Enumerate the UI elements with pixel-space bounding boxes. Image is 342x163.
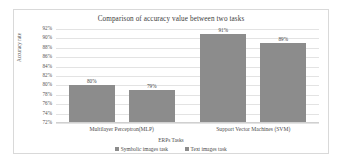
chart-title: Comparison of accuracy value between two… — [14, 15, 328, 23]
gridline — [56, 123, 319, 124]
bar-value-label: 89% — [278, 36, 288, 42]
bar — [69, 85, 115, 123]
x-axis-category-label: Multilayer Perceptron(MLP) — [90, 126, 154, 132]
bar — [200, 34, 246, 123]
legend-item[interactable]: Text images task — [185, 146, 227, 152]
y-axis-tick-label: 80% — [42, 83, 52, 88]
y-axis-tick-label: 90% — [42, 36, 52, 41]
gridline — [56, 29, 319, 30]
y-axis-tick-label: 82% — [42, 73, 52, 78]
bar-value-label: 79% — [147, 83, 157, 89]
y-axis-tick-label: 88% — [42, 45, 52, 50]
legend-swatch-icon — [185, 147, 189, 151]
y-axis-tick-label: 92% — [42, 26, 52, 31]
y-axis-tick-labels: 92%90%88%86%84%82%80%78%76%74%72% — [28, 29, 54, 123]
y-axis-tick-label: 78% — [42, 92, 52, 97]
legend-label: Symbolic images task — [121, 146, 168, 152]
bar — [129, 90, 175, 123]
plot-area: 80%79%91%89% — [56, 29, 319, 123]
bar-value-label: 91% — [218, 27, 228, 33]
y-axis-tick-label: 76% — [42, 102, 52, 107]
y-axis-title: Accuracy rate — [16, 33, 22, 62]
legend-label: Text images task — [191, 146, 227, 152]
x-axis-line — [56, 122, 319, 123]
y-axis-tick-label: 74% — [42, 111, 52, 116]
chart-container: Comparison of accuracy value between two… — [13, 9, 329, 154]
legend-swatch-icon — [115, 147, 119, 151]
y-axis-tick-label: 86% — [42, 55, 52, 60]
x-axis-category-label: Support Vector Machines (SVM) — [216, 126, 290, 132]
chart-legend: Symbolic images taskText images task — [14, 146, 328, 152]
y-axis-tick-label: 72% — [42, 120, 52, 125]
bar — [260, 43, 306, 123]
y-axis-tick-label: 84% — [42, 64, 52, 69]
x-axis-title: ERPs Tasks — [14, 137, 328, 143]
legend-item[interactable]: Symbolic images task — [115, 146, 168, 152]
bar-value-label: 80% — [87, 78, 97, 84]
